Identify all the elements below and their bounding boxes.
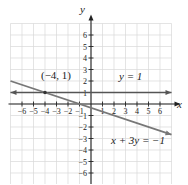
svg-text:−5: −5: [78, 158, 87, 167]
svg-text:−4: −4: [78, 146, 87, 155]
svg-text:5: 5: [83, 43, 87, 52]
svg-text:6: 6: [158, 107, 162, 116]
svg-text:3: 3: [83, 66, 87, 75]
svg-text:5: 5: [147, 107, 151, 116]
svg-text:−6: −6: [78, 169, 87, 178]
svg-text:3: 3: [124, 107, 128, 116]
y-axis-label: y: [79, 3, 85, 15]
svg-text:−5: −5: [29, 107, 38, 116]
line1-label: y = 1: [118, 70, 142, 82]
svg-text:−3: −3: [78, 135, 87, 144]
svg-text:−4: −4: [41, 107, 50, 116]
axes: [9, 15, 181, 185]
svg-text:−2: −2: [64, 107, 73, 116]
svg-text:−2: −2: [78, 123, 87, 132]
svg-text:4: 4: [135, 107, 139, 116]
line2-label: x + 3y = −1: [110, 134, 165, 146]
svg-text:4: 4: [83, 54, 87, 63]
svg-text:−3: −3: [52, 107, 61, 116]
coordinate-plane: −6−5−4−3−2−1123456654321−1−2−3−4−5−6 x y…: [0, 0, 188, 184]
svg-text:2: 2: [83, 77, 87, 86]
svg-text:−6: −6: [18, 107, 27, 116]
svg-text:6: 6: [83, 31, 87, 40]
svg-text:−1: −1: [78, 112, 87, 121]
x-axis-label: x: [176, 98, 182, 110]
intersection-label: (−4, 1): [41, 69, 71, 82]
